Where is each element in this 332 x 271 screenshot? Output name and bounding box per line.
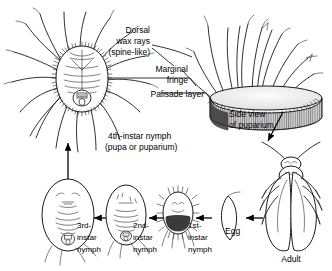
label-egg: Egg: [225, 226, 240, 236]
label-marginal-fringe-line2: fringe: [167, 75, 189, 85]
label-palisade-layer: Palisade layer: [151, 89, 205, 99]
vasiform-orifice: [73, 90, 91, 106]
label-dorsal-wax-rays-line2: wax rays: [115, 36, 150, 46]
label-side-view-line1: Side view: [229, 109, 266, 119]
label-second-instar-line1: 2nd-: [133, 221, 149, 230]
whitefly-life-cycle-figure: Dorsal wax rays (spine-like) Marginal fr…: [0, 0, 332, 271]
label-dorsal-wax-rays-line1: Dorsal: [125, 25, 150, 35]
label-third-instar-line1: 3rd-: [77, 221, 92, 230]
third-instar-vasiform-orifice: [62, 233, 75, 245]
label-side-view-line2: of puparium: [229, 120, 274, 130]
second-instar-vasiform-orifice: [121, 231, 132, 241]
label-first-instar-line3: nymph: [188, 245, 212, 254]
label-third-instar-line2: instar: [77, 233, 97, 242]
label-first-instar-line1: 1st-: [188, 221, 202, 230]
label-third-instar-line3: nymph: [77, 245, 101, 254]
label-second-instar-line2: instar: [133, 233, 153, 242]
label-adult: Adult: [281, 254, 301, 264]
label-dorsal-wax-rays-line3: (spine-like): [108, 47, 150, 57]
diagram-canvas: Dorsal wax rays (spine-like) Marginal fr…: [0, 0, 332, 271]
label-marginal-fringe-line1: Marginal: [155, 64, 188, 74]
label-fourth-instar-line2: (pupa or puparium): [105, 142, 177, 152]
label-second-instar-line3: nymph: [133, 245, 157, 254]
label-fourth-instar-line1: 4th-instar nymph: [108, 131, 172, 141]
label-first-instar-line2: instar: [188, 233, 208, 242]
